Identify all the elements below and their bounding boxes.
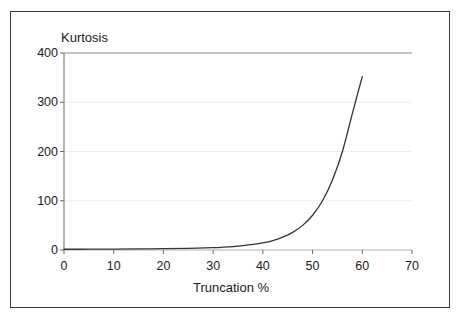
x-axis-title: Truncation % [0,281,462,294]
x-tick-label-60: 60 [342,260,382,273]
gridlines-group [64,53,412,250]
y-tick-label-200: 200 [18,146,58,159]
y-tick-label-300: 300 [18,96,58,109]
ticks-group [60,53,412,254]
x-tick-label-20: 20 [143,260,183,273]
x-tick-label-30: 30 [193,260,233,273]
y-tick-label-400: 400 [18,47,58,60]
x-tick-label-70: 70 [392,260,432,273]
x-tick-label-40: 40 [243,260,283,273]
chart-figure: 0100200300400 010203040506070 Kurtosis T… [0,0,462,321]
plot-canvas [0,0,462,321]
y-axis-title: Kurtosis [61,31,108,44]
y-tick-label-0: 0 [18,244,58,257]
x-tick-label-50: 50 [293,260,333,273]
y-tick-label-100: 100 [18,195,58,208]
x-tick-label-0: 0 [44,260,84,273]
x-tick-label-10: 10 [94,260,134,273]
